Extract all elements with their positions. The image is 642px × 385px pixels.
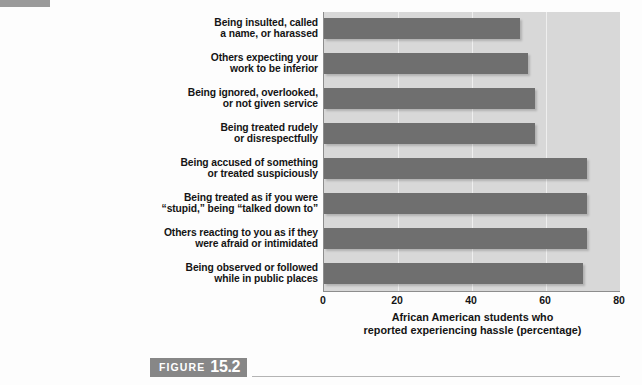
figure-label-box: FIGURE 15.2 [150,358,247,377]
category-label-line: Others reacting to you as if they [120,227,318,239]
bar [324,53,528,74]
bar [324,193,587,214]
x-axis-tick-label: 0 [320,294,326,306]
bar-chart: Being insulted, calleda name, or harasse… [0,0,642,345]
figure-word: FIGURE [159,361,205,373]
category-label-line: Being observed or followed [120,262,318,274]
bar [324,18,520,39]
category-label-line: work to be inferior [120,63,318,75]
category-label-line: or treated suspiciously [120,168,318,180]
category-label: Being treated rudelyor disrespectfully [120,122,318,145]
category-label-line: Being insulted, called [120,17,318,29]
category-label: Being accused of somethingor treated sus… [120,157,318,180]
bar [324,123,535,144]
plot-area [323,12,620,292]
category-label: Being treated as if you were“stupid,” be… [120,192,318,215]
x-axis-tick-label: 80 [613,294,625,306]
x-axis-title-line-2: reported experiencing hassle (percentage… [330,324,615,337]
category-label-line: Others expecting your [120,52,318,64]
x-axis-title: African American students who reported e… [330,311,615,337]
category-label-line: Being accused of something [120,157,318,169]
category-label: Others expecting yourwork to be inferior [120,52,318,75]
caption-rule [252,376,620,377]
x-axis-tick-label: 60 [539,294,551,306]
gridline [546,12,547,291]
category-label-line: “stupid,” being “talked down to” [120,203,318,215]
category-label-line: or disrespectfully [120,133,318,145]
category-label-line: Being treated rudely [120,122,318,134]
figure-page: Being insulted, calleda name, or harasse… [0,0,642,385]
x-axis-tick-labels: 020406080 [323,294,623,310]
category-label-line: or not given service [120,98,318,110]
category-label: Others reacting to you as if theywere af… [120,227,318,250]
category-label: Being ignored, overlooked,or not given s… [120,87,318,110]
x-axis-title-line-1: African American students who [330,311,615,324]
category-axis-labels: Being insulted, calleda name, or harasse… [120,12,318,292]
bar [324,158,587,179]
category-label: Being observed or followedwhile in publi… [120,262,318,285]
figure-number: 15.2 [210,358,240,376]
category-label-line: were afraid or intimidated [120,238,318,250]
bar [324,228,587,249]
bar [324,263,583,284]
bar [324,88,535,109]
figure-caption: FIGURE 15.2 [150,358,247,377]
x-axis-tick-label: 20 [391,294,403,306]
category-label-line: while in public places [120,273,318,285]
category-label-line: a name, or harassed [120,28,318,40]
category-label: Being insulted, calleda name, or harasse… [120,17,318,40]
category-label-line: Being treated as if you were [120,192,318,204]
x-axis-tick-label: 40 [465,294,477,306]
category-label-line: Being ignored, overlooked, [120,87,318,99]
